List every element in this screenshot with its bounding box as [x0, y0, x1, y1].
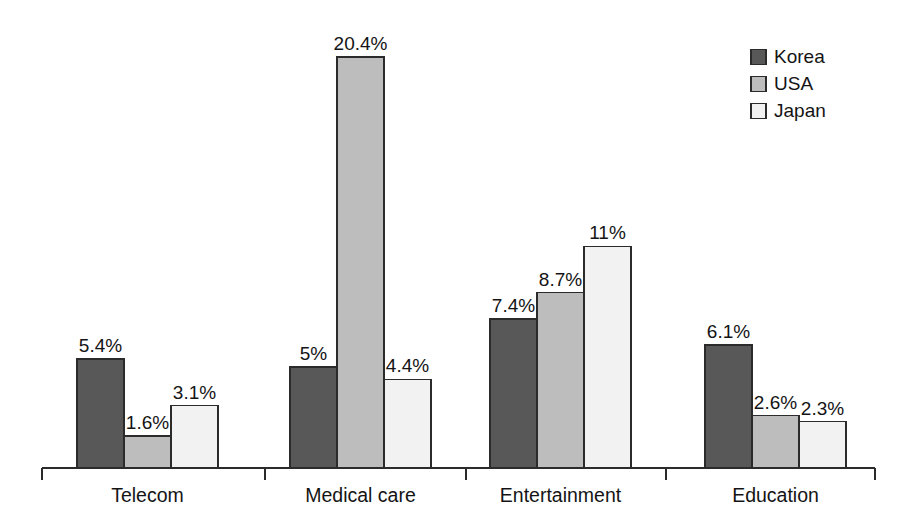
legend-label-japan: Japan [774, 100, 826, 121]
bar-korea-education [705, 345, 752, 468]
bar-value-label: 8.7% [539, 269, 582, 290]
category-label-telecom: Telecom [111, 484, 184, 506]
bar-value-label: 2.3% [801, 398, 844, 419]
category-label-education: Education [732, 484, 819, 506]
bar-usa-entertainment [537, 293, 584, 468]
bar-value-label: 5% [300, 343, 328, 364]
bar-japan-medical-care [384, 379, 431, 468]
bar-korea-medical-care [290, 367, 337, 468]
bar-usa-education [752, 416, 799, 468]
x-axis [42, 468, 875, 480]
chart-legend: KoreaUSAJapan [751, 46, 826, 121]
bar-japan-entertainment [584, 246, 631, 468]
bar-value-label: 6.1% [707, 321, 750, 342]
bar-japan-telecom [171, 406, 218, 468]
legend-swatch-korea [751, 50, 766, 65]
bar-value-label: 1.6% [126, 412, 169, 433]
legend-swatch-usa [751, 77, 766, 92]
bars-layer [77, 57, 846, 468]
bar-usa-medical-care [337, 57, 384, 468]
chart-container: 5.4%1.6%3.1%5%20.4%4.4%7.4%8.7%11%6.1%2.… [0, 0, 908, 527]
bar-value-label: 2.6% [754, 392, 797, 413]
legend-swatch-japan [751, 104, 766, 119]
bar-usa-telecom [124, 436, 171, 468]
category-label-entertainment: Entertainment [500, 484, 622, 506]
bar-value-label: 4.4% [386, 355, 429, 376]
bar-value-label: 7.4% [492, 295, 535, 316]
bar-value-label: 3.1% [173, 382, 216, 403]
bar-value-label: 5.4% [79, 335, 122, 356]
category-axis-labels: TelecomMedical careEntertainmentEducatio… [111, 484, 819, 506]
bar-korea-entertainment [490, 319, 537, 468]
category-label-medical-care: Medical care [305, 484, 416, 506]
bar-value-label: 20.4% [334, 33, 388, 54]
bar-japan-education [799, 422, 846, 468]
grouped-bar-chart: 5.4%1.6%3.1%5%20.4%4.4%7.4%8.7%11%6.1%2.… [0, 0, 908, 527]
bar-korea-telecom [77, 359, 124, 468]
legend-label-korea: Korea [774, 46, 825, 67]
legend-label-usa: USA [774, 73, 813, 94]
bar-value-label: 11% [589, 222, 626, 243]
